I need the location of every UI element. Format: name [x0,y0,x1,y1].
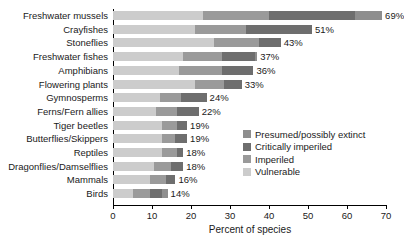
x-tick [152,205,153,209]
bar-segment-presumed-possibly-extinct [355,11,382,20]
value-label: 22% [202,107,221,116]
legend-item: Critically imperiled [243,141,365,154]
bar-row: Flowering plants33% [0,80,400,89]
legend-swatch-icon [243,130,251,138]
stacked-bar [113,107,199,116]
bar-segment-critically-imperiled [177,121,187,130]
bar-segment-critically-imperiled [166,175,176,184]
bar-segment-vulnerable [113,52,183,61]
value-label: 69% [385,11,404,20]
x-tick [386,205,387,209]
bar-segment-critically-imperiled [224,80,242,89]
legend-item: Presumed/possibly extinct [243,128,365,141]
x-tick [230,205,231,209]
x-tick-label: 50 [303,210,314,221]
bar-segment-vulnerable [113,93,160,102]
category-label: Stoneflies [0,38,108,47]
stacked-bar [113,66,253,75]
bar-segment-imperiled [203,11,269,20]
bar-segment-critically-imperiled [222,52,255,61]
stacked-bar [113,189,168,198]
bar-row: Freshwater fishes37% [0,52,400,61]
legend-label: Critically imperiled [255,142,332,151]
category-label: Tiger beetles [0,121,108,130]
bar-row: Crayfishes51% [0,25,400,34]
stacked-bar [113,162,183,171]
x-tick-label: 10 [147,210,158,221]
bar-segment-imperiled [154,162,172,171]
x-tick-label: 60 [342,210,353,221]
bar-segment-imperiled [160,93,181,102]
x-tick [308,205,309,209]
stacked-bar [113,11,382,20]
value-label: 14% [171,189,190,198]
x-axis-line [113,205,387,206]
value-label: 51% [315,25,334,34]
x-tick-label: 30 [225,210,236,221]
bar-segment-critically-imperiled [269,11,355,20]
category-label: Butterflies/Skippers [0,134,108,143]
value-label: 24% [210,93,229,102]
stacked-bar [113,52,257,61]
category-label: Crayfishes [0,25,108,34]
bar-row: Ferns/Fern allies22% [0,107,400,116]
bar-row: Stoneflies43% [0,38,400,47]
stacked-bar [113,93,207,102]
value-label: 43% [284,38,303,47]
bar-segment-vulnerable [113,134,162,143]
bar-segment-imperiled [150,175,166,184]
stacked-bar [113,134,187,143]
bar-segment-critically-imperiled [259,38,280,47]
x-axis-title: Percent of species [113,224,387,235]
bar-segment-vulnerable [113,25,195,34]
bar-segment-vulnerable [113,162,154,171]
x-tick [347,205,348,209]
stacked-bar [113,25,312,34]
legend-swatch-icon [243,168,251,176]
bar-segment-critically-imperiled [171,162,183,171]
bar-segment-vulnerable [113,38,214,47]
bar-segment-vulnerable [113,80,195,89]
category-label: Reptiles [0,148,108,157]
category-label: Ferns/Fern allies [0,107,108,116]
bar-segment-presumed-possibly-extinct [162,189,168,198]
legend-label: Imperiled [255,155,294,164]
value-label: 18% [186,162,205,171]
category-label: Freshwater fishes [0,52,108,61]
bar-row: Gymnosperms24% [0,93,400,102]
bar-segment-vulnerable [113,66,179,75]
bar-row: Amphibians36% [0,66,400,75]
value-label: 36% [256,66,275,75]
bar-segment-vulnerable [113,148,162,157]
bar-segment-critically-imperiled [181,93,206,102]
bar-segment-vulnerable [113,11,203,20]
category-label: Amphibians [0,66,108,75]
bar-segment-critically-imperiled [150,189,162,198]
legend-label: Vulnerable [255,167,300,176]
stacked-bar [113,121,187,130]
bar-row: Freshwater mussels69% [0,11,400,20]
value-label: 37% [260,52,279,61]
bar-segment-imperiled [162,134,176,143]
legend-item: Imperiled [243,153,365,166]
bar-row: Birds14% [0,189,400,198]
category-label: Freshwater mussels [0,11,108,20]
category-label: Dragonflies/Damselflies [0,162,108,171]
legend: Presumed/possibly extinctCritically impe… [243,128,365,178]
legend-label: Presumed/possibly extinct [255,130,365,139]
bar-segment-critically-imperiled [177,107,198,116]
bar-segment-imperiled [179,66,222,75]
bar-segment-vulnerable [113,121,162,130]
bar-segment-imperiled [214,38,259,47]
bar-segment-vulnerable [113,189,133,198]
value-label: 18% [186,148,205,157]
bar-segment-imperiled [156,107,177,116]
bar-segment-imperiled [162,121,178,130]
category-label: Gymnosperms [0,93,108,102]
bar-segment-critically-imperiled [222,66,253,75]
stacked-bar [113,148,183,157]
legend-swatch-icon [243,143,251,151]
value-label: 19% [190,134,209,143]
x-tick [191,205,192,209]
